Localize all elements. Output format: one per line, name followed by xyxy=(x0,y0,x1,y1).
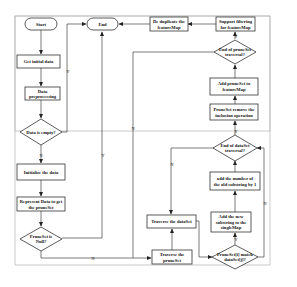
svg-text:End of pruneSet: End of pruneSet xyxy=(219,47,252,52)
svg-text:for featureMap: for featureMap xyxy=(220,25,251,30)
svg-text:Start: Start xyxy=(36,22,46,27)
label-match-no: N xyxy=(263,201,266,206)
label-endprune-no: N xyxy=(131,126,134,131)
node-pruneset-null: PruneSet is Null? xyxy=(20,227,62,251)
node-dedup: De duplicate the featureMap xyxy=(150,17,188,31)
label-match-yes: Y xyxy=(234,237,237,242)
svg-text:Traverse the dataSet: Traverse the dataSet xyxy=(151,219,192,224)
node-end-dataset: End of dataSet traversal? xyxy=(213,135,257,161)
edge-null-no-traverse xyxy=(41,251,151,258)
node-initialize: Initialize the data xyxy=(17,164,65,180)
node-preprocessing: Data preprocessing xyxy=(25,87,60,100)
svg-text:add the number of: add the number of xyxy=(217,176,254,181)
label-enddata-no: N xyxy=(170,162,173,167)
svg-text:singleMap: singleMap xyxy=(221,225,242,230)
edge-empty-yes-end xyxy=(62,24,86,132)
svg-text:Get initial data: Get initial data xyxy=(24,59,54,64)
svg-text:inclusion operation: inclusion operation xyxy=(215,113,253,118)
svg-text:De duplicate the: De duplicate the xyxy=(153,19,185,24)
svg-text:the old substring by 1: the old substring by 1 xyxy=(214,182,257,187)
label-empty-yes: Y xyxy=(66,69,69,74)
svg-text:Data: Data xyxy=(38,89,48,94)
node-get-initial: Get initial data xyxy=(17,55,60,68)
svg-text:Add pruneSet to: Add pruneSet to xyxy=(218,81,251,86)
node-traverse-pruneset: Traverse the pruneSet xyxy=(152,250,192,264)
flowchart: Y N Y N N Y Y N N Y Start End De duplica… xyxy=(0,0,297,287)
node-traverse-dataset: Traverse the dataSet xyxy=(147,215,196,228)
node-pruneset-remove: PruneSet remove the inclusion operation xyxy=(210,104,258,120)
node-represent: Represent Data to get the pruneSet xyxy=(17,197,65,211)
svg-text:Data is empty?: Data is empty? xyxy=(26,130,56,135)
label-null-no: N xyxy=(91,256,94,261)
svg-text:Initialize the data: Initialize the data xyxy=(24,170,59,175)
svg-text:End of dataSet: End of dataSet xyxy=(220,143,250,148)
node-end: End xyxy=(87,18,118,30)
svg-text:traversal?: traversal? xyxy=(225,52,246,57)
svg-text:PruneSet remove the: PruneSet remove the xyxy=(214,107,255,112)
svg-text:PruneSet is: PruneSet is xyxy=(30,234,53,239)
node-start: Start xyxy=(25,18,57,30)
svg-text:Represent Data to get: Represent Data to get xyxy=(20,199,63,204)
svg-text:Traverse the: Traverse the xyxy=(160,252,185,257)
svg-text:traversal?: traversal? xyxy=(225,148,246,153)
svg-text:PruneSet[i] match: PruneSet[i] match xyxy=(217,252,253,257)
node-add-pruneset: Add pruneSet to featureMap xyxy=(210,78,258,95)
edge-travdata-match xyxy=(196,221,212,257)
node-add-new-substring: Add the new substring to the singleMap xyxy=(211,212,251,232)
label-endprune-yes: Y xyxy=(234,34,237,39)
svg-text:pruneSet: pruneSet xyxy=(163,258,181,263)
svg-text:preprocessing: preprocessing xyxy=(29,94,57,99)
node-support: Support filtering for featureMap xyxy=(216,17,255,31)
node-end-pruneset: End of pruneSet traversal? xyxy=(214,40,256,64)
svg-text:featureMap: featureMap xyxy=(222,87,246,92)
label-enddata-yes: Y xyxy=(234,129,237,134)
edge-enddata-no xyxy=(171,148,214,214)
svg-text:Add the new: Add the new xyxy=(219,214,244,219)
label-empty-no: N xyxy=(39,153,42,158)
svg-text:Null?: Null? xyxy=(36,239,47,244)
node-add-number: add the number of the old substring by 1 xyxy=(210,172,260,190)
svg-text:substring to the: substring to the xyxy=(216,220,247,225)
svg-text:End: End xyxy=(98,22,107,27)
svg-text:dataSet[j]?: dataSet[j]? xyxy=(224,257,246,262)
svg-text:the pruneSet: the pruneSet xyxy=(28,205,54,210)
edge-null-yes-end xyxy=(62,32,102,238)
svg-text:Support filtering: Support filtering xyxy=(219,19,253,24)
node-data-empty: Data is empty? xyxy=(20,119,62,145)
label-null-yes: Y xyxy=(101,153,104,158)
svg-text:featureMap: featureMap xyxy=(157,25,181,30)
